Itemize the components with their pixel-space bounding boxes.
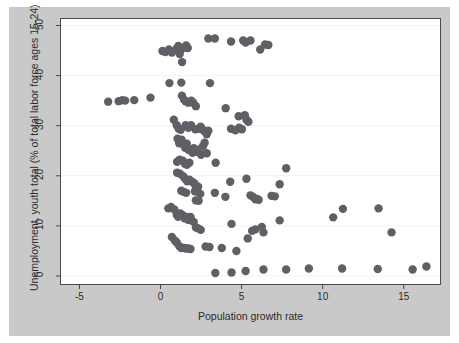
x-tick-label: -5 — [61, 291, 97, 302]
x-tick-label: 5 — [224, 291, 260, 302]
x-tick-label: 0 — [143, 291, 179, 302]
scatter-plot-figure: -5051015 01020304050 Population growth r… — [0, 0, 459, 343]
x-tick-label: 15 — [386, 291, 422, 302]
x-axis-title: Population growth rate — [60, 310, 441, 322]
plot-area — [60, 18, 441, 285]
y-axis-title: Unemployment, youth total (% of total la… — [28, 11, 40, 291]
x-tick-label: 10 — [305, 291, 341, 302]
